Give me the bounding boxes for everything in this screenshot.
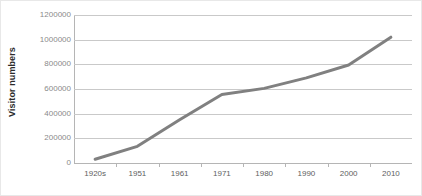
x-tick-label: 1971 (213, 170, 231, 178)
chart-container: Visitor numbers 020000040000060000080000… (0, 0, 422, 196)
y-tick-label: 1000000 (23, 36, 71, 44)
x-tick-mark (243, 163, 244, 167)
y-axis-title-label: Visitor numbers (7, 47, 17, 117)
x-tick-label: 1951 (128, 170, 146, 178)
x-tick-mark (370, 163, 371, 167)
y-tick-label: 400000 (23, 110, 71, 118)
x-tick-label: 1961 (171, 170, 189, 178)
x-tick-label: 2000 (340, 170, 358, 178)
x-tick-mark (285, 163, 286, 167)
y-tick-label: 0 (23, 159, 71, 167)
y-axis-tick-labels: 020000040000060000080000010000001200000 (21, 1, 71, 196)
x-tick-label: 1990 (297, 170, 315, 178)
y-tick-label: 200000 (23, 134, 71, 142)
x-tick-mark (328, 163, 329, 167)
series-line-visitor-numbers (74, 15, 412, 163)
y-axis-title: Visitor numbers (1, 1, 23, 163)
x-tick-label: 2010 (382, 170, 400, 178)
x-tick-mark (159, 163, 160, 167)
x-tick-mark (201, 163, 202, 167)
x-tick-mark (116, 163, 117, 167)
x-tick-label: 1920s (84, 170, 106, 178)
plot-area (74, 15, 412, 163)
y-tick-label: 800000 (23, 60, 71, 68)
y-tick-label: 1200000 (23, 11, 71, 19)
x-tick-label: 1980 (255, 170, 273, 178)
y-tick-label: 600000 (23, 85, 71, 93)
